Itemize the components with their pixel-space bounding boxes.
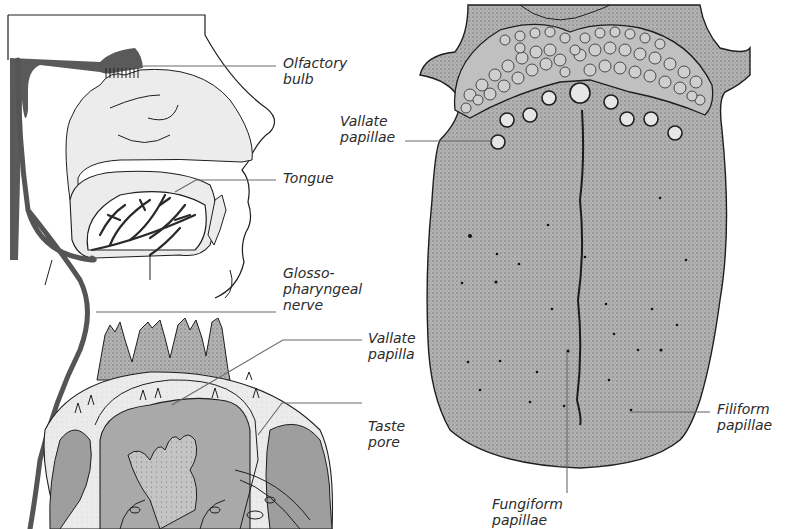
label-tongue: Tongue — [283, 170, 334, 186]
label-fungiform-papillae: Fungiform papillae — [492, 496, 563, 528]
label-olfactory-bulb: Olfactory bulb — [283, 55, 347, 87]
vallate-papilla-cross-section — [44, 318, 333, 529]
label-filiform-papillae: Filiform papillae — [717, 401, 772, 433]
label-glossopharyngeal-nerve: Glosso- pharyngeal nerve — [283, 265, 362, 313]
label-vallate-papilla: Vallate papilla — [368, 330, 416, 362]
tongue-dorsal-view — [420, 5, 750, 468]
label-vallate-papillae: Vallate papillae — [340, 113, 395, 145]
label-taste-pore: Taste pore — [368, 418, 405, 450]
